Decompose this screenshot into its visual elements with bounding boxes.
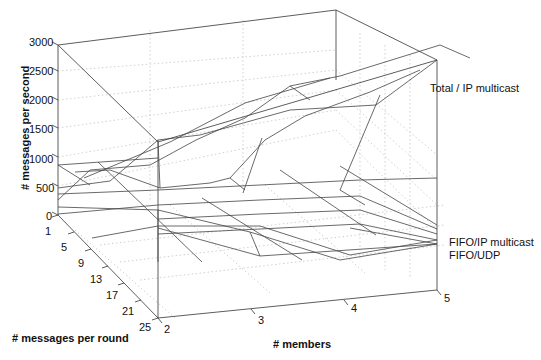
x-tick-label: 3 [258, 315, 264, 326]
series-label-total-ip-multicast: Total / IP multicast [430, 83, 519, 94]
y-tick-label: 25 [139, 322, 151, 333]
series-label-fifo-ip-multicast: FIFO/IP multicast [449, 237, 534, 248]
y-tick-label: 1 [45, 226, 51, 237]
z-tick-label: 1500 [29, 124, 53, 135]
y-tick-label: 13 [90, 274, 102, 285]
x-tick-label: 4 [351, 303, 357, 314]
z-tick-label: 0 [46, 211, 52, 222]
y-tick-label: 21 [122, 306, 134, 317]
z-tick-label: 2000 [29, 95, 53, 106]
z-tick-label: 1000 [29, 154, 53, 165]
surface-total-ip-multicast [58, 45, 470, 205]
x-axis-title: # members [273, 339, 331, 350]
z-tick-label: 500 [36, 183, 54, 194]
y-tick-label: 17 [106, 290, 118, 301]
y-axis-title: # messages per round [12, 333, 129, 344]
axes-box [58, 10, 437, 318]
y-tick-label: 5 [61, 242, 67, 253]
y-tick-label: 9 [78, 258, 84, 269]
series-label-fifo-udp: FIFO/UDP [449, 250, 500, 261]
z-tick-label: 3000 [29, 37, 53, 48]
surface-chart [0, 0, 541, 360]
z-axis-title: # messages per second [20, 66, 31, 190]
z-tick-label: 2500 [29, 66, 53, 77]
surface-fifo-udp [58, 207, 437, 262]
x-tick-label: 5 [444, 293, 450, 304]
x-tick-label: 2 [164, 324, 170, 335]
